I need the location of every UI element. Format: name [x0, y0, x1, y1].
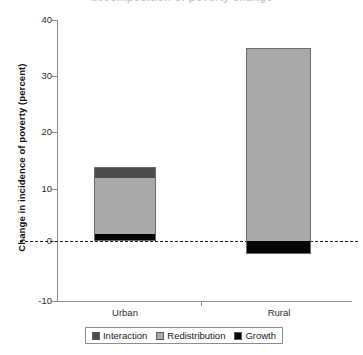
- bar-urban-segment-redistribution: [94, 178, 156, 234]
- bar-rural-segment-redistribution: [246, 48, 311, 241]
- y-axis-title: Change in incidence of poverty (percent): [16, 33, 27, 283]
- x-axis-line: [57, 301, 352, 302]
- chart-legend: Interaction Redistribution Growth: [85, 327, 283, 344]
- bar-urban-segment-interaction: [94, 167, 156, 178]
- legend-label-interaction: Interaction: [103, 331, 147, 341]
- legend-swatch-redistribution-icon: [156, 332, 164, 340]
- legend-label-growth: Growth: [245, 331, 276, 341]
- legend-item-growth: Growth: [234, 331, 276, 341]
- legend-item-interaction: Interaction: [92, 331, 147, 341]
- legend-swatch-growth-icon: [234, 332, 242, 340]
- plot-area: Change in incidence of poverty (percent)…: [0, 0, 363, 355]
- x-axis-label-rural: Rural: [234, 307, 324, 318]
- y-axis-line: [57, 20, 58, 302]
- y-tick-10: [52, 189, 58, 190]
- y-tick-20: [52, 132, 58, 133]
- bar-urban: [94, 167, 156, 241]
- legend-item-redistribution: Redistribution: [156, 331, 225, 341]
- legend-swatch-interaction-icon: [92, 332, 100, 340]
- y-tick-30: [52, 76, 58, 77]
- x-axis-tick-middle: [201, 301, 202, 306]
- y-tick-neg10: [52, 301, 58, 302]
- y-tick-40: [52, 20, 58, 21]
- legend-label-redistribution: Redistribution: [167, 331, 225, 341]
- poverty-decomposition-chart: decomposition of poverty change Change i…: [0, 0, 363, 355]
- y-tick-label-neg10: -10: [18, 296, 52, 305]
- y-tick-label-40: 40: [18, 15, 52, 24]
- bar-rural-segment-growth: [246, 241, 311, 254]
- y-tick-label-20: 20: [18, 127, 52, 136]
- y-tick-label-30: 30: [18, 71, 52, 80]
- x-axis-label-urban: Urban: [80, 307, 170, 318]
- y-tick-label-10: 10: [18, 184, 52, 193]
- bar-rural: [246, 48, 311, 254]
- bar-urban-segment-growth: [94, 234, 156, 241]
